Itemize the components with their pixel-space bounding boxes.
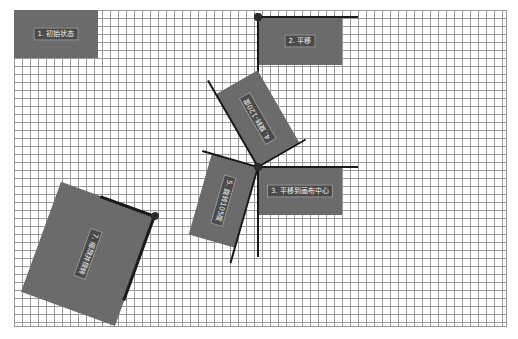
rect-step-3: 3. 平移到画布中心	[258, 167, 342, 215]
x-axis-line	[258, 16, 358, 18]
label-step-3: 3. 平移到画布中心	[267, 185, 333, 198]
label-step-4: 4. 旋转-120度	[239, 92, 277, 145]
rect-step-2: 2. 平移	[258, 17, 342, 65]
rect-step-1: 1. 初始状态	[14, 10, 98, 58]
label-step-1: 1. 初始状态	[34, 28, 79, 41]
label-step-7: 7. 缩放并旋转	[73, 227, 103, 280]
step-2-origin-dot	[254, 13, 262, 21]
y-axis-line	[257, 167, 259, 257]
label-step-5: 5. 旋转105度	[210, 174, 237, 227]
grid-canvas: 1. 初始状态 2. 平移 3. 平移到画布中心 4. 旋转-120度 5. 旋…	[14, 10, 507, 327]
center-origin-dot	[254, 163, 262, 171]
x-axis-line	[258, 166, 358, 168]
rect-step-7: 7. 缩放并旋转	[21, 182, 155, 326]
label-step-2: 2. 平移	[285, 35, 316, 48]
